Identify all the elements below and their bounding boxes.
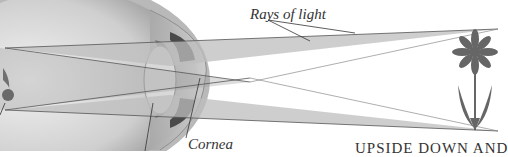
caption-label: UPSIDE DOWN AND <box>355 140 508 157</box>
flower-object <box>452 29 498 131</box>
rays-of-light-label: Rays of light <box>250 6 326 23</box>
cornea-label: Cornea <box>188 136 233 153</box>
